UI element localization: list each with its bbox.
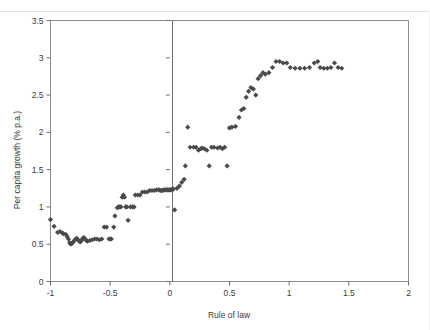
x-tick-label: -0.5: [103, 288, 118, 298]
data-point: [48, 217, 53, 222]
data-point: [244, 95, 249, 100]
x-tick-label: 0: [167, 288, 172, 298]
data-point: [307, 65, 312, 70]
y-tick-label: 2: [39, 127, 44, 137]
x-tick-label: 1: [287, 288, 292, 298]
data-point: [270, 65, 275, 70]
x-axis-title: Rule of law: [208, 310, 251, 320]
data-point: [233, 124, 238, 129]
y-tick-label: 1: [39, 202, 44, 212]
data-point: [112, 213, 117, 218]
y-tick-label: 3: [39, 53, 44, 63]
figure-canvas: -1-0.500.511.52 00.511.522.533.5 Rule of…: [0, 0, 430, 330]
data-point: [297, 66, 302, 71]
data-point: [185, 125, 190, 130]
x-axis-ticks: -1-0.500.511.52: [47, 282, 411, 298]
data-point: [288, 65, 293, 70]
y-axis-title: Per capita growth (% p.a.): [12, 111, 22, 209]
x-tick-label: 1.5: [343, 288, 355, 298]
scatter-plot: -1-0.500.511.52 00.511.522.533.5 Rule of…: [0, 0, 430, 330]
data-point-group: [48, 59, 344, 247]
data-point: [332, 60, 337, 65]
y-tick-label: 0: [39, 277, 44, 287]
plot-frame: [51, 21, 409, 282]
data-point: [125, 218, 130, 223]
data-point: [183, 163, 188, 168]
x-tick-label: 2: [406, 288, 411, 298]
data-point: [225, 163, 230, 168]
y-tick-label: 0.5: [32, 239, 44, 249]
data-point: [328, 65, 333, 70]
data-point: [236, 115, 241, 120]
data-point: [207, 163, 212, 168]
data-point: [51, 224, 56, 229]
y-tick-label: 3.5: [32, 16, 44, 26]
x-tick-label: 0.5: [224, 288, 236, 298]
y-tick-label: 1.5: [32, 165, 44, 175]
data-point: [293, 66, 298, 71]
x-tick-label: -1: [47, 288, 55, 298]
data-point: [284, 60, 289, 65]
data-point: [339, 66, 344, 71]
data-point: [111, 224, 116, 229]
data-point: [253, 92, 258, 97]
data-point: [302, 66, 307, 71]
y-tick-label: 2.5: [32, 90, 44, 100]
y-axis-ticks: 00.511.522.533.5: [32, 16, 170, 287]
